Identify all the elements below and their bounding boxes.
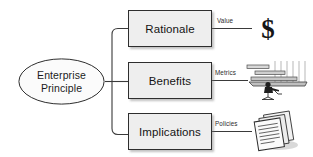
branch-box-benefits[interactable]: Benefits xyxy=(128,62,212,99)
diagram-canvas: Enterprise Principle Rationale Value $ B… xyxy=(0,0,313,157)
stacked-documents-icon xyxy=(252,110,304,152)
branch-box-implications[interactable]: Implications xyxy=(128,113,212,150)
branch-box-rationale[interactable]: Rationale xyxy=(128,10,212,47)
root-node-enterprise-principle[interactable]: Enterprise Principle xyxy=(18,58,105,105)
branch-label-rationale: Rationale xyxy=(145,23,195,35)
root-node-label: Enterprise Principle xyxy=(37,69,86,94)
branch-label-implications: Implications xyxy=(139,126,201,138)
edge-label-policies: Policies xyxy=(215,120,238,127)
gantt-chart-workstation-icon xyxy=(245,60,309,102)
edge-label-value: Value xyxy=(217,17,233,24)
edge-label-metrics: Metrics xyxy=(215,69,236,76)
branch-label-benefits: Benefits xyxy=(149,75,191,87)
dollar-sign-icon: $ xyxy=(253,14,283,44)
